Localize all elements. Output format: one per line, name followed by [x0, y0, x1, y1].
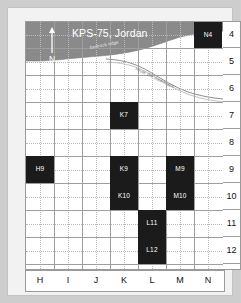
excavation-square-l11[interactable]: L11: [138, 210, 166, 237]
site-plan-figure: N KPS-75, Jordan bedrock ridge route the…: [0, 0, 240, 303]
row-label-8: 8: [223, 137, 240, 147]
column-label-k: K: [110, 275, 138, 285]
excavation-square-n4[interactable]: N4: [194, 22, 222, 48]
excavation-square-m10[interactable]: M10: [166, 183, 194, 210]
column-label-m: M: [166, 275, 194, 285]
row-label-column: 4 5 6 7 8 9 10 11 12: [223, 21, 240, 270]
column-label-row: H I J K L M N: [25, 270, 225, 292]
excavation-square-k10[interactable]: K10: [110, 183, 138, 210]
row-label-7: 7: [223, 110, 240, 120]
row-label-4: 4: [223, 29, 240, 39]
figure-plate: N KPS-75, Jordan bedrock ridge route the…: [8, 8, 232, 295]
column-label-n: N: [194, 275, 222, 285]
column-label-j: J: [82, 275, 110, 285]
row-label-5: 5: [223, 56, 240, 66]
column-label-l: L: [138, 275, 166, 285]
excavation-square-m9[interactable]: M9: [166, 156, 194, 183]
north-label: N: [46, 54, 58, 64]
row-label-10: 10: [223, 191, 240, 201]
row-label-12: 12: [223, 245, 240, 255]
excavation-square-l12[interactable]: L12: [138, 237, 166, 264]
excavation-square-k7[interactable]: K7: [110, 102, 138, 129]
row-label-11: 11: [223, 218, 240, 228]
row-label-6: 6: [223, 83, 240, 93]
column-label-i: I: [54, 275, 82, 285]
annotation-bedrock-ridge: bedrock ridge: [90, 39, 120, 49]
row-label-9: 9: [223, 164, 240, 174]
excavation-grid: N KPS-75, Jordan bedrock ridge route the…: [25, 21, 225, 270]
excavation-square-h9[interactable]: H9: [26, 156, 54, 183]
annotation-route: route the wadi/track: [135, 66, 175, 89]
map-title: KPS-75, Jordan: [72, 27, 148, 39]
excavation-square-k9[interactable]: K9: [110, 156, 138, 183]
column-label-h: H: [26, 275, 54, 285]
north-arrow: N: [45, 27, 59, 67]
